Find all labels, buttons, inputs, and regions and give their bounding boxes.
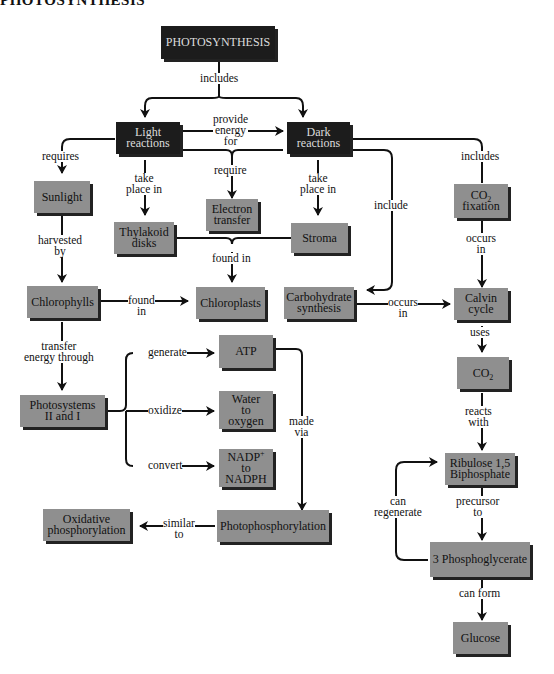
edge-found-in-brace	[176, 238, 292, 244]
node-label: synthesis	[286, 303, 351, 314]
node-label: ATP	[235, 346, 256, 357]
node-oxidative-phosphorylation: Oxidativephosphorylation	[43, 509, 130, 541]
label-line: via	[289, 427, 314, 438]
node-carbohydrate-synthesis: Carbohydratesynthesis	[284, 287, 354, 319]
label-line: in	[128, 306, 155, 317]
label-can-form: can form	[459, 588, 500, 599]
label-includes-top: includes	[200, 73, 238, 84]
node-photophosphorylation: Photophosphorylation	[217, 510, 329, 542]
node-label: Glucose	[461, 633, 500, 644]
label-line: in	[466, 244, 496, 255]
node-water-to-oxygen: Watertooxygen	[219, 391, 273, 429]
node-label: disks	[119, 238, 168, 249]
label-line: to	[456, 507, 499, 518]
edge-require-brace	[182, 150, 283, 156]
node-label: Photophosphorylation	[220, 521, 326, 532]
label-generate: generate	[148, 347, 187, 358]
label-occurs-in-co2: occursin	[466, 233, 496, 255]
label-oxidize: oxidize	[148, 405, 182, 416]
label-provide-energy-for: provideenergyfor	[213, 114, 248, 147]
label-line: place in	[300, 184, 336, 195]
node-photosynthesis: PHOTOSYNTHESIS	[161, 26, 275, 59]
label-made-via: madevia	[289, 416, 314, 438]
node-label: CO	[473, 366, 490, 380]
node-co2-fixation: CO2fixation	[454, 184, 508, 218]
node-chlorophylls: Chlorophylls	[27, 286, 98, 318]
node-phosphoglycerate: 3 Phosphoglycerate	[430, 542, 530, 577]
node-dark-reactions: Darkreactions	[287, 122, 350, 154]
node-label: transfer	[212, 215, 253, 226]
node-sunlight: Sunlight	[34, 181, 90, 213]
node-label: II and I	[29, 411, 95, 422]
label-can-regenerate: canregenerate	[374, 496, 422, 518]
node-nadp-to-nadph: NADP+toNADPH	[219, 449, 273, 487]
label-precursor-to: precursorto	[456, 496, 499, 518]
label-found-in-chloro: foundin	[128, 295, 155, 317]
node-label: Sunlight	[42, 192, 83, 203]
edge-branch-low	[126, 411, 133, 466]
node-light-reactions: Lightreactions	[116, 122, 180, 154]
label-take-place-in-dark: takeplace in	[300, 173, 336, 195]
node-co2: CO2	[457, 357, 509, 389]
node-glucose: Glucose	[453, 622, 508, 654]
label-line: with	[465, 417, 492, 428]
node-atp: ATP	[219, 335, 273, 368]
node-label: Stroma	[302, 233, 337, 244]
label-line: for	[213, 136, 248, 147]
node-label: reactions	[126, 138, 169, 149]
node-label: Biphosphate	[450, 469, 511, 480]
node-thylakoid-disks: Thylakoiddisks	[114, 222, 174, 254]
node-stroma: Stroma	[291, 223, 348, 253]
label-requires: requires	[42, 151, 79, 162]
label-line: by	[38, 246, 82, 257]
label-line: in	[388, 308, 418, 319]
label-uses: uses	[470, 327, 490, 338]
label-occurs-in-carb: occursin	[388, 297, 418, 319]
node-label: oxygen	[228, 416, 263, 427]
superscript: +	[260, 449, 265, 458]
node-calvin-cycle: Calvincycle	[454, 288, 508, 320]
label-convert: convert	[148, 460, 182, 471]
label-line: to	[163, 529, 195, 540]
label-found-in-mid: found in	[212, 253, 251, 264]
subscript: 2	[489, 373, 493, 382]
node-electron-transfer: Electrontransfer	[206, 199, 258, 231]
node-label: fixation	[462, 201, 499, 212]
edge-includes-light	[145, 96, 219, 117]
node-label: cycle	[465, 304, 497, 315]
edge-include	[350, 150, 392, 290]
node-label: Chlorophylls	[31, 297, 94, 308]
label-includes-right: includes	[461, 151, 499, 162]
label-include: include	[374, 200, 408, 211]
node-label: reactions	[297, 138, 340, 149]
label-reacts-with: reactswith	[465, 406, 492, 428]
label-harvested-by: harvestedby	[38, 235, 82, 257]
label-take-place-in-light: takeplace in	[126, 173, 162, 195]
label-transfer-energy-through: transferenergy through	[24, 341, 94, 363]
label-line: regenerate	[374, 507, 422, 518]
node-label: PHOTOSYNTHESIS	[166, 37, 270, 48]
node-label: Chloroplasts	[200, 298, 261, 309]
node-chloroplasts: Chloroplasts	[196, 287, 265, 319]
edge-branch	[107, 353, 133, 411]
label-require: require	[214, 165, 247, 176]
node-label: phosphorylation	[48, 525, 126, 536]
label-line: place in	[126, 184, 162, 195]
node-ribulose: Ribulose 1,5Biphosphate	[445, 453, 515, 485]
label-similar-to: similarto	[163, 518, 195, 540]
node-label: 3 Phosphoglycerate	[433, 554, 527, 565]
node-photosystems: PhotosystemsII and I	[20, 395, 105, 427]
node-label: NADPH	[225, 474, 266, 485]
label-line: energy through	[24, 352, 94, 363]
